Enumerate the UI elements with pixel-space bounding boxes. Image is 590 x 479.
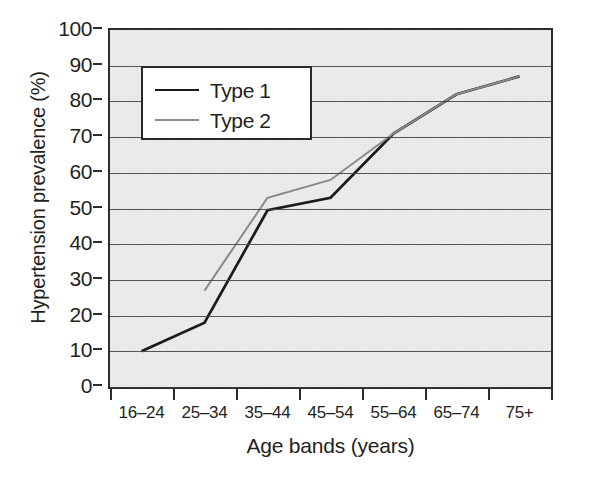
gridline-60 (110, 173, 551, 174)
x-tick-label-3: 45–54 (308, 404, 354, 423)
legend-entry-type-2: Type 2 (143, 105, 310, 135)
y-axis: 1009080706050403020100 (44, 28, 102, 389)
x-tick-mark-7 (551, 389, 553, 400)
y-tick-mark-10 (93, 348, 102, 350)
x-tick-mark-3 (299, 389, 301, 400)
legend-swatch-type-1 (155, 89, 199, 91)
y-tick-label-0: 0 (81, 375, 92, 396)
legend-entry-type-1: Type 1 (143, 75, 310, 105)
y-tick-label-100: 100 (58, 18, 92, 39)
x-axis-labels: 16–2425–3435–4445–5455–6465–7475+ (108, 404, 553, 430)
gridline-0 (110, 387, 551, 388)
y-tick-label-60: 60 (69, 160, 92, 181)
y-tick-mark-80 (93, 98, 102, 100)
chart-legend: Type 1Type 2 (141, 66, 312, 140)
legend-swatch-type-2 (155, 119, 199, 121)
gridline-20 (110, 316, 551, 317)
gridline-30 (110, 280, 551, 281)
y-tick-label-90: 90 (69, 53, 92, 74)
y-tick-mark-60 (93, 170, 102, 172)
gridline-40 (110, 244, 551, 245)
gridline-50 (110, 209, 551, 210)
x-tick-label-5: 65–74 (434, 404, 480, 423)
x-tick-mark-4 (362, 389, 364, 400)
x-tick-label-4: 55–64 (371, 404, 417, 423)
chart-figure: Hypertension prevalence (%) 100908070605… (0, 0, 590, 479)
y-tick-mark-40 (93, 241, 102, 243)
y-tick-mark-70 (93, 134, 102, 136)
y-tick-label-40: 40 (69, 232, 92, 253)
x-tick-mark-6 (488, 389, 490, 400)
x-tick-mark-5 (425, 389, 427, 400)
y-tick-label-70: 70 (69, 125, 92, 146)
y-tick-label-30: 30 (69, 267, 92, 288)
y-tick-mark-30 (93, 277, 102, 279)
x-tick-label-0: 16–24 (119, 404, 165, 423)
legend-label-type-2: Type 2 (210, 110, 271, 131)
x-tick-mark-2 (236, 389, 238, 400)
x-axis-title: Age bands (years) (108, 434, 553, 458)
y-tick-label-80: 80 (69, 89, 92, 110)
x-tick-mark-1 (173, 389, 175, 400)
x-axis-ticks (108, 389, 553, 401)
y-tick-mark-50 (93, 206, 102, 208)
x-tick-label-2: 35–44 (245, 404, 291, 423)
y-tick-mark-20 (93, 313, 102, 315)
y-tick-label-10: 10 (69, 339, 92, 360)
y-tick-mark-90 (93, 63, 102, 65)
gridline-10 (110, 351, 551, 352)
legend-label-type-1: Type 1 (210, 80, 271, 101)
x-tick-mark-0 (110, 389, 112, 400)
y-tick-mark-0 (93, 384, 102, 386)
x-tick-label-1: 25–34 (182, 404, 228, 423)
y-tick-mark-100 (93, 27, 102, 29)
y-tick-label-50: 50 (69, 196, 92, 217)
x-tick-label-6: 75+ (506, 404, 534, 423)
y-tick-label-20: 20 (69, 303, 92, 324)
